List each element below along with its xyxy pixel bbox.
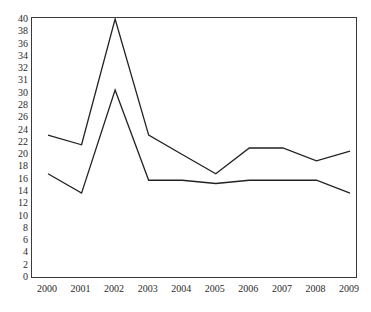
x-tick-label: 2009	[329, 283, 369, 294]
x-axis: 2000200120022003200420052006200720082009	[0, 0, 371, 312]
line-chart: 403836343231302826242220181614121086420 …	[0, 0, 371, 312]
